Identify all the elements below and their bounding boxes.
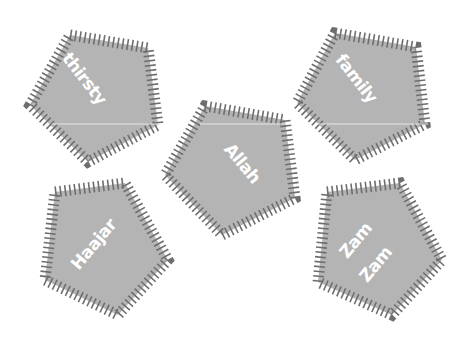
pentagon-card-thirsty[interactable]: thirsty: [30, 35, 160, 162]
pentagon-shape: [45, 183, 168, 315]
pentagon-card-family[interactable]: family: [297, 33, 428, 160]
pentagon-card-haajar[interactable]: Haajar: [45, 183, 168, 315]
pentagon-card-zamzam[interactable]: Zam Zam: [318, 183, 442, 315]
pentagon-shape: [165, 106, 295, 235]
word-pentagons-canvas: thirsty family Allah Haajar Zam Zam: [0, 0, 471, 344]
pentagon-card-allah[interactable]: Allah: [165, 106, 295, 235]
